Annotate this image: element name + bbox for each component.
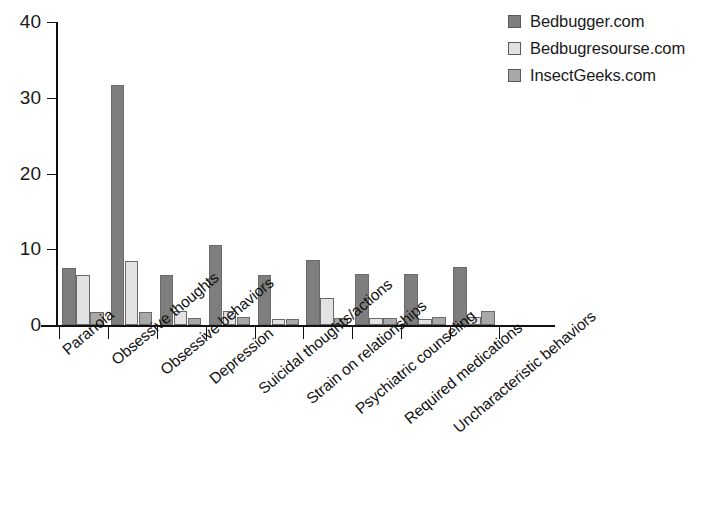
bar[interactable] bbox=[188, 318, 202, 325]
bar[interactable] bbox=[320, 298, 334, 325]
bars-container bbox=[58, 22, 496, 325]
bar[interactable] bbox=[223, 311, 237, 325]
bar[interactable] bbox=[111, 85, 125, 325]
legend-item[interactable]: Bedbugger.com bbox=[508, 8, 718, 35]
bar-group bbox=[355, 22, 397, 325]
bar[interactable] bbox=[258, 275, 272, 325]
bar[interactable] bbox=[174, 311, 188, 325]
y-axis-tick: 0 bbox=[47, 325, 56, 326]
bar-group bbox=[62, 22, 104, 325]
x-axis-tick bbox=[108, 327, 109, 339]
x-axis-tick bbox=[499, 327, 500, 339]
legend-swatch-icon bbox=[508, 15, 521, 28]
y-axis-tick-label: 40 bbox=[20, 11, 41, 33]
bar[interactable] bbox=[125, 261, 139, 325]
x-axis-label: Depression bbox=[206, 325, 277, 389]
bar[interactable] bbox=[369, 318, 383, 325]
bar[interactable] bbox=[62, 268, 76, 325]
x-axis-tick bbox=[303, 327, 304, 339]
x-axis-line bbox=[41, 325, 555, 327]
legend-label: InsectGeeks.com bbox=[530, 66, 656, 85]
bar[interactable] bbox=[355, 274, 369, 325]
x-axis-tick bbox=[206, 327, 207, 339]
bar-group bbox=[160, 22, 202, 325]
chart-legend: Bedbugger.comBedbugresourse.comInsectGee… bbox=[508, 8, 718, 89]
x-axis-tick bbox=[255, 327, 256, 339]
x-axis-tick bbox=[352, 327, 353, 339]
y-axis-tick-label: 0 bbox=[30, 314, 41, 336]
bar-group bbox=[306, 22, 348, 325]
plot-area: 010203040 bbox=[56, 22, 496, 325]
bar[interactable] bbox=[160, 275, 174, 325]
bar[interactable] bbox=[334, 318, 348, 325]
bar[interactable] bbox=[418, 319, 432, 325]
bar[interactable] bbox=[237, 317, 251, 325]
bar-group bbox=[258, 22, 300, 325]
bar-group bbox=[209, 22, 251, 325]
legend-swatch-icon bbox=[508, 69, 521, 82]
y-axis-tick: 40 bbox=[47, 22, 56, 23]
legend-item[interactable]: InsectGeeks.com bbox=[508, 62, 718, 89]
x-axis-tick bbox=[59, 327, 60, 339]
bar-group bbox=[111, 22, 153, 325]
legend-item[interactable]: Bedbugresourse.com bbox=[508, 35, 718, 62]
y-axis-tick: 10 bbox=[47, 249, 56, 250]
y-axis-tick: 30 bbox=[47, 98, 56, 99]
bar-group bbox=[404, 22, 446, 325]
x-axis-tick bbox=[157, 327, 158, 339]
bar[interactable] bbox=[453, 267, 467, 325]
bar-chart: Bedbugger.comBedbugresourse.comInsectGee… bbox=[0, 0, 722, 525]
legend-swatch-icon bbox=[508, 42, 521, 55]
legend-label: Bedbugresourse.com bbox=[530, 39, 685, 58]
bar[interactable] bbox=[306, 260, 320, 325]
legend-label: Bedbugger.com bbox=[530, 12, 644, 31]
x-axis-label: Uncharacteristic behaviors bbox=[450, 308, 599, 438]
bar[interactable] bbox=[209, 245, 223, 325]
bar[interactable] bbox=[467, 317, 481, 325]
bar-group bbox=[453, 22, 495, 325]
y-axis-tick-label: 20 bbox=[20, 163, 41, 185]
x-axis-tick bbox=[401, 327, 402, 339]
bar[interactable] bbox=[383, 318, 397, 325]
y-axis-tick-label: 30 bbox=[20, 87, 41, 109]
bar[interactable] bbox=[432, 317, 446, 325]
bar[interactable] bbox=[286, 319, 300, 325]
bar[interactable] bbox=[404, 274, 418, 325]
bar[interactable] bbox=[90, 312, 104, 325]
bar[interactable] bbox=[272, 319, 286, 325]
x-axis-label: Required medications bbox=[401, 319, 526, 428]
bar[interactable] bbox=[481, 311, 495, 325]
x-axis-tick bbox=[450, 327, 451, 339]
bar[interactable] bbox=[76, 275, 90, 325]
bar[interactable] bbox=[139, 312, 153, 325]
y-axis-tick: 20 bbox=[47, 174, 56, 175]
y-axis-tick-label: 10 bbox=[20, 238, 41, 260]
